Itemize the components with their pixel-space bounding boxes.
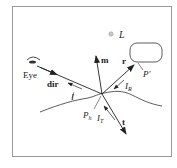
transmitted-intensity-label: IT xyxy=(96,113,104,124)
eye-label: Eye xyxy=(23,70,37,80)
dir-label: dir xyxy=(47,79,59,89)
hit-point-label: Ph xyxy=(82,110,92,121)
transmitted-vector xyxy=(102,94,126,134)
object-point-label: P' xyxy=(142,69,151,79)
light-label: L xyxy=(118,29,125,40)
incident-intensity-arrow xyxy=(68,83,82,89)
surface-curve xyxy=(40,91,162,112)
transmit-label: t xyxy=(122,117,125,127)
light-source-icon xyxy=(109,32,113,36)
eye-icon xyxy=(27,57,40,64)
normal-label: m xyxy=(101,55,109,65)
reflected-intensity-label: IR xyxy=(124,81,132,92)
object-shape xyxy=(130,43,162,62)
ray-tracing-diagram: L P' Eye dir I m r IR Ph t IT xyxy=(0,0,177,168)
dir-arrow xyxy=(40,67,57,74)
diagram-frame xyxy=(13,7,172,157)
reflect-label: r xyxy=(122,56,126,66)
hit-point-pointer xyxy=(94,96,101,109)
